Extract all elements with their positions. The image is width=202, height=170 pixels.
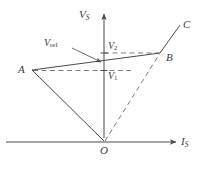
v1-label: V1 [108, 71, 118, 82]
point-a-label: A [18, 64, 25, 75]
segment-a-b [32, 53, 160, 70]
segment-b-c [160, 25, 180, 53]
vref-label: Vref [44, 38, 58, 49]
vi-characteristic-figure: VS IS O A B C V2 V1 Vref [0, 0, 202, 170]
vs-axis-label: VS [79, 9, 89, 21]
origin-label: O [100, 145, 108, 156]
segment-a-o [32, 70, 104, 141]
is-axis-label: IS [181, 136, 188, 148]
v2-label: V2 [108, 41, 118, 52]
o-to-b-dashed-line [105, 54, 160, 141]
point-b-label: B [166, 52, 173, 63]
vref-leader-arrow [72, 48, 101, 62]
point-c-label: C [183, 19, 190, 30]
